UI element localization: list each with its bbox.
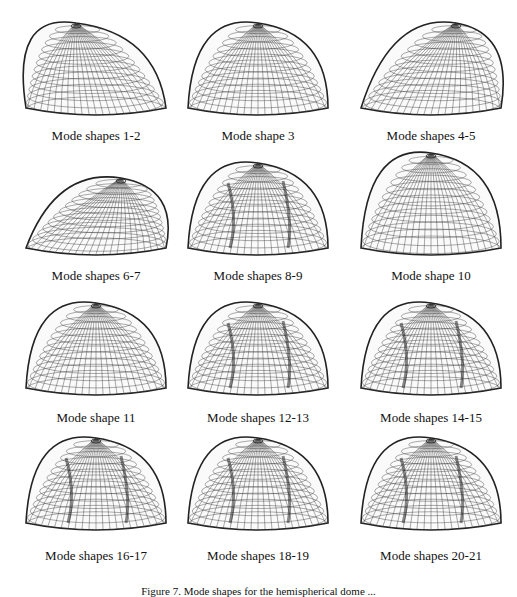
mode-shape-label: Mode shapes 16-17 [10, 548, 182, 564]
mode-shape-label: Mode shapes 18-19 [172, 548, 344, 564]
figure-caption: Figure 7. Mode shapes for the hemispheri… [0, 585, 517, 597]
mode-shape-label: Mode shapes 20-21 [345, 548, 517, 564]
